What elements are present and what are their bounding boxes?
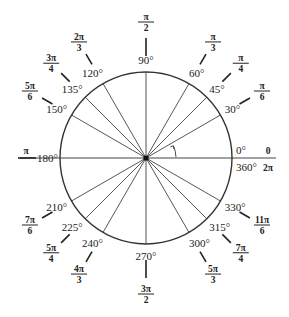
- radian-denominator: 4: [238, 64, 243, 74]
- radian-fraction: 3π4: [43, 53, 59, 74]
- angle-label-30: 30°π6: [225, 81, 270, 115]
- radian-denominator: 2: [144, 23, 149, 33]
- radian-denominator: 3: [211, 43, 216, 53]
- unit-circle-diagram: 0°360°02π30°π645°π460°π390°π2120°2π3135°…: [0, 0, 289, 317]
- angle-label-120: 120°2π3: [71, 32, 103, 79]
- radian-numerator: 7π: [236, 243, 247, 253]
- angle-label-330: 330°11π6: [225, 201, 270, 236]
- angle-label-210: 210°7π6: [22, 201, 67, 236]
- radian-numerator: 3π: [46, 53, 57, 63]
- radian-fraction: 2π3: [71, 32, 87, 53]
- radian-numerator: π: [143, 12, 149, 22]
- radian-fraction: 5π3: [205, 264, 221, 285]
- radian-fraction: π2: [138, 12, 154, 33]
- angle-label-315: 315°7π4: [209, 221, 248, 263]
- radian-numerator: 5π: [25, 81, 36, 91]
- degree-label: 60°: [189, 67, 204, 79]
- degree-label: 330°: [225, 201, 246, 213]
- radian-numerator: 4π: [74, 264, 85, 274]
- radian-fraction: π4: [233, 53, 249, 74]
- angle-label-90: 90°π2: [138, 12, 154, 66]
- unit-circle-svg: 0°360°02π30°π645°π460°π390°π2120°2π3135°…: [0, 0, 289, 317]
- degree-label: 210°: [46, 201, 67, 213]
- degree-label: 180°: [37, 152, 58, 164]
- radian-denominator: 6: [28, 226, 33, 236]
- radian-denominator: 4: [238, 254, 243, 264]
- radian-numerator: π: [259, 81, 265, 91]
- radian-denominator: 2: [144, 295, 149, 305]
- radian-label: 0: [266, 146, 271, 156]
- angle-label-45: 45°π4: [209, 53, 248, 94]
- ray-60: [146, 84, 189, 158]
- degree-label: 45°: [209, 83, 224, 95]
- radian-fraction: 5π4: [43, 243, 59, 264]
- ray-135: [85, 97, 146, 158]
- ray-330: [146, 158, 220, 201]
- degree-label: 0°: [236, 144, 246, 156]
- angle-label-150: 150°5π6: [22, 81, 67, 115]
- radian-numerator: 5π: [208, 264, 219, 274]
- ray-45: [146, 97, 207, 158]
- ray-210: [72, 158, 146, 201]
- degree-label: 120°: [82, 67, 103, 79]
- radian-numerator: 5π: [46, 243, 57, 253]
- label-tick: [61, 73, 69, 81]
- radian-numerator: 7π: [25, 215, 36, 225]
- ray-240: [103, 158, 146, 232]
- radian-denominator: 6: [260, 92, 265, 102]
- radian-fraction: π6: [254, 81, 270, 102]
- radian-numerator: π: [210, 32, 216, 42]
- ray-300: [146, 158, 189, 232]
- radian-fraction: 11π6: [254, 215, 270, 236]
- ray-150: [72, 115, 146, 158]
- radian-fraction: 3π2: [138, 284, 154, 305]
- degree-label: 30°: [225, 103, 240, 115]
- angle-label-225: 225°5π4: [43, 221, 82, 263]
- radian-label: π: [23, 146, 29, 156]
- radian-numerator: π: [238, 53, 244, 63]
- degree-label-360: 360°: [236, 161, 257, 173]
- label-tick: [200, 54, 206, 64]
- degree-label: 315°: [209, 221, 230, 233]
- radian-denominator: 3: [77, 275, 82, 285]
- radian-fraction: 7π6: [22, 215, 38, 236]
- label-tick: [222, 73, 230, 81]
- radian-denominator: 4: [49, 254, 54, 264]
- angle-label-240: 240°4π3: [71, 237, 103, 285]
- ray-120: [103, 84, 146, 158]
- origin-point: [143, 155, 148, 160]
- rotation-arrow-icon: [170, 146, 176, 157]
- label-tick: [200, 252, 206, 262]
- degree-label: 150°: [46, 103, 67, 115]
- radian-fraction: 7π4: [233, 243, 249, 264]
- degree-label: 240°: [82, 237, 103, 249]
- label-tick: [61, 234, 69, 242]
- angle-label-270: 270°3π2: [136, 250, 157, 305]
- label-tick: [86, 54, 92, 64]
- degree-label: 225°: [62, 221, 83, 233]
- radian-denominator: 6: [28, 92, 33, 102]
- radian-numerator: 3π: [141, 284, 152, 294]
- degree-label: 300°: [189, 237, 210, 249]
- label-tick: [86, 252, 92, 262]
- radian-numerator: 2π: [74, 32, 85, 42]
- radian-fraction: 5π6: [22, 81, 38, 102]
- radian-denominator: 4: [49, 64, 54, 74]
- ray-30: [146, 115, 220, 158]
- radian-denominator: 6: [260, 226, 265, 236]
- radian-denominator: 3: [211, 275, 216, 285]
- radian-label-2pi: 2π: [263, 163, 274, 173]
- angle-label-60: 60°π3: [189, 32, 221, 79]
- angle-label-135: 135°3π4: [43, 53, 82, 94]
- angle-label-180: 180°π: [23, 146, 58, 164]
- ray-225: [85, 158, 146, 219]
- radian-fraction: 4π3: [71, 264, 87, 285]
- radian-denominator: 3: [77, 43, 82, 53]
- radian-numerator: 11π: [255, 215, 270, 225]
- label-tick: [222, 234, 230, 242]
- ray-315: [146, 158, 207, 219]
- angle-label-300: 300°5π3: [189, 237, 221, 285]
- radian-fraction: π3: [205, 32, 221, 53]
- degree-label: 135°: [62, 83, 83, 95]
- label-tick: [240, 98, 250, 104]
